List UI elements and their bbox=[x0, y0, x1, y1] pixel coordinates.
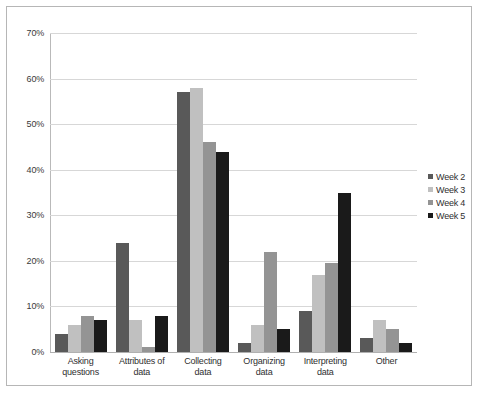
bar bbox=[312, 275, 325, 352]
bar bbox=[68, 325, 81, 352]
legend-item[interactable]: Week 5 bbox=[428, 209, 478, 222]
legend-label: Week 2 bbox=[436, 172, 465, 182]
bar bbox=[116, 243, 129, 352]
bar bbox=[264, 252, 277, 352]
x-axis-tick-label: Collectingdata bbox=[172, 356, 233, 378]
bar bbox=[190, 88, 203, 352]
bar-group bbox=[295, 33, 356, 352]
legend-swatch-icon bbox=[428, 187, 433, 192]
y-axis-tick-label: 10% bbox=[27, 301, 44, 311]
legend-item[interactable]: Week 3 bbox=[428, 183, 478, 196]
bar bbox=[142, 347, 155, 352]
legend-item[interactable]: Week 4 bbox=[428, 196, 478, 209]
y-axis-tick-label: 20% bbox=[27, 256, 44, 266]
y-axis-tick-labels: 70%60%50%40%30%20%10%0% bbox=[7, 33, 44, 352]
bar bbox=[251, 325, 264, 352]
y-axis-tick-label: 70% bbox=[27, 28, 44, 38]
bar bbox=[155, 316, 168, 352]
bar bbox=[399, 343, 412, 352]
legend-item[interactable]: Week 2 bbox=[428, 170, 478, 183]
bar bbox=[360, 338, 373, 352]
x-axis-tick-label: Askingquestions bbox=[50, 356, 111, 378]
bar bbox=[129, 320, 142, 352]
x-axis-tick-label: Other bbox=[356, 356, 417, 378]
bar bbox=[325, 263, 338, 352]
bar bbox=[299, 311, 312, 352]
plot-area bbox=[50, 33, 417, 352]
y-axis-tick-label: 60% bbox=[27, 74, 44, 84]
bar bbox=[94, 320, 107, 352]
bar bbox=[373, 320, 386, 352]
bar bbox=[203, 142, 216, 352]
legend-label: Week 4 bbox=[436, 198, 465, 208]
bar bbox=[338, 193, 351, 353]
legend-swatch-icon bbox=[428, 174, 433, 179]
bar bbox=[238, 343, 251, 352]
bar bbox=[55, 334, 68, 352]
bar-group bbox=[356, 33, 417, 352]
bar-groups bbox=[50, 33, 417, 352]
x-axis-tick-label: Interpretingdata bbox=[295, 356, 356, 378]
y-axis-tick-label: 0% bbox=[31, 347, 44, 357]
bar bbox=[81, 316, 94, 352]
bar-group bbox=[234, 33, 295, 352]
bar-group bbox=[111, 33, 172, 352]
bar-group bbox=[50, 33, 111, 352]
x-axis-tick-label: Attributes ofdata bbox=[111, 356, 172, 378]
bar-group bbox=[172, 33, 233, 352]
legend: Week 2Week 3Week 4Week 5 bbox=[428, 170, 478, 222]
gridline bbox=[50, 352, 417, 353]
y-axis-tick-label: 30% bbox=[27, 210, 44, 220]
chart-container: 70%60%50%40%30%20%10%0% AskingquestionsA… bbox=[6, 6, 472, 386]
y-axis-tick-label: 40% bbox=[27, 165, 44, 175]
bar bbox=[277, 329, 290, 352]
x-axis-tick-labels: AskingquestionsAttributes ofdataCollecti… bbox=[50, 356, 417, 378]
legend-label: Week 5 bbox=[436, 211, 465, 221]
legend-label: Week 3 bbox=[436, 185, 465, 195]
x-axis-tick-label: Organizingdata bbox=[234, 356, 295, 378]
bar bbox=[386, 329, 399, 352]
bar bbox=[177, 92, 190, 352]
bar bbox=[216, 152, 229, 353]
legend-swatch-icon bbox=[428, 213, 433, 218]
legend-swatch-icon bbox=[428, 200, 433, 205]
y-axis-tick-label: 50% bbox=[27, 119, 44, 129]
